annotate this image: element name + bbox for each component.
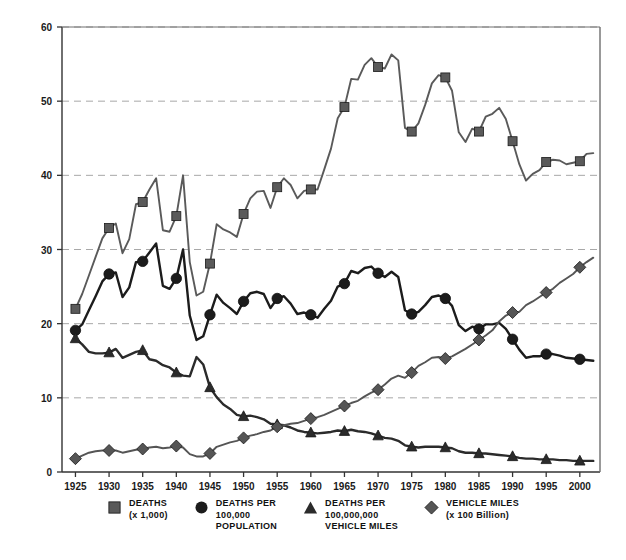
legend-label: DEATHS(x 1,000)	[129, 498, 168, 521]
data-point-marker	[338, 400, 350, 412]
legend-label-line: DEATHS PER	[216, 498, 277, 510]
legend-label-line: POPULATION	[216, 521, 277, 533]
data-point-marker	[171, 273, 181, 283]
legend-label-line: DEATHS	[129, 498, 168, 510]
circle-marker-icon	[194, 500, 209, 515]
data-point-marker	[105, 223, 114, 232]
data-point-marker	[306, 185, 315, 194]
data-point-marker	[69, 453, 81, 465]
data-point-marker	[71, 304, 80, 313]
data-point-marker	[172, 212, 181, 221]
data-point-marker	[541, 349, 551, 359]
data-point-marker	[239, 209, 248, 218]
legend-label-line: VEHICLE MILES	[325, 521, 398, 533]
svg-text:20: 20	[41, 319, 53, 330]
data-point-marker	[205, 310, 215, 320]
data-point-marker	[238, 296, 248, 306]
legend-label-line: 100,000,000	[325, 510, 398, 522]
svg-text:1995: 1995	[535, 481, 558, 492]
data-point-marker	[103, 444, 115, 456]
diamond-marker-icon	[424, 500, 439, 515]
data-point-marker	[440, 293, 450, 303]
y-axis-labels: 0102030405060	[41, 22, 53, 478]
line-chart-svg: 0102030405060 19251930193519401945195019…	[0, 0, 626, 495]
gridlines	[62, 27, 600, 398]
x-axis-labels: 1925193019351940194519501955196019651970…	[64, 481, 591, 492]
legend-item: DEATHS PER100,000POPULATION	[194, 498, 277, 533]
svg-text:0: 0	[46, 467, 52, 478]
legend-item: VEHICLE MILES(x 100 Billion)	[424, 498, 519, 521]
svg-text:1965: 1965	[333, 481, 356, 492]
x-axis-ticks	[75, 472, 579, 477]
svg-text:1990: 1990	[501, 481, 524, 492]
svg-text:1960: 1960	[300, 481, 323, 492]
data-point-marker	[205, 259, 214, 268]
data-point-marker	[238, 432, 250, 444]
svg-text:50: 50	[41, 96, 53, 107]
series-markers	[69, 63, 585, 466]
square-marker-icon	[107, 500, 122, 515]
legend-item: DEATHS(x 1,000)	[107, 498, 168, 521]
data-point-marker	[575, 354, 585, 364]
data-point-marker	[542, 157, 551, 166]
data-point-marker	[138, 345, 148, 355]
data-point-marker	[138, 198, 147, 207]
data-point-marker	[374, 63, 383, 72]
svg-text:1980: 1980	[434, 481, 457, 492]
svg-text:1985: 1985	[468, 481, 491, 492]
data-point-marker	[205, 382, 215, 392]
svg-text:1925: 1925	[64, 481, 87, 492]
svg-text:10: 10	[41, 393, 53, 404]
svg-text:60: 60	[41, 22, 53, 33]
data-point-marker	[271, 421, 283, 433]
legend-item: DEATHS PER100,000,000VEHICLE MILES	[303, 498, 398, 533]
svg-text:1950: 1950	[232, 481, 255, 492]
data-point-marker	[575, 157, 584, 166]
chart-canvas: 0102030405060 19251930193519401945195019…	[0, 0, 626, 495]
data-point-marker	[339, 278, 349, 288]
data-point-marker	[508, 137, 517, 146]
svg-text:1935: 1935	[132, 481, 155, 492]
svg-text:1955: 1955	[266, 481, 289, 492]
series-lines	[75, 54, 593, 460]
svg-text:1930: 1930	[98, 481, 121, 492]
chart-page: 0102030405060 19251930193519401945195019…	[0, 0, 626, 560]
data-point-marker	[273, 183, 282, 192]
data-point-marker	[507, 334, 517, 344]
data-point-marker	[540, 287, 552, 299]
data-point-marker	[474, 127, 483, 136]
legend-label: DEATHS PER100,000,000VEHICLE MILES	[325, 498, 398, 533]
data-point-marker	[272, 293, 282, 303]
svg-text:1970: 1970	[367, 481, 390, 492]
svg-text:1940: 1940	[165, 481, 188, 492]
data-point-marker	[138, 256, 148, 266]
legend-label-line: DEATHS PER	[325, 498, 398, 510]
legend-label-line: 100,000	[216, 510, 277, 522]
data-point-marker	[473, 334, 485, 346]
data-point-marker	[137, 443, 149, 455]
legend-label: VEHICLE MILES(x 100 Billion)	[446, 498, 519, 521]
y-axis-ticks	[57, 27, 62, 472]
data-point-marker	[439, 353, 451, 365]
data-point-marker	[441, 73, 450, 82]
data-point-marker	[340, 103, 349, 112]
data-point-marker	[507, 307, 519, 319]
data-point-marker	[407, 127, 416, 136]
data-point-marker	[474, 324, 484, 334]
legend-label-line: (x 1,000)	[129, 510, 168, 522]
svg-text:1975: 1975	[401, 481, 424, 492]
legend-label: DEATHS PER100,000POPULATION	[216, 498, 277, 533]
svg-text:40: 40	[41, 170, 53, 181]
data-point-marker	[373, 268, 383, 278]
data-point-marker	[305, 413, 317, 425]
legend-label-line: VEHICLE MILES	[446, 498, 519, 510]
svg-text:2000: 2000	[569, 481, 592, 492]
svg-text:1945: 1945	[199, 481, 222, 492]
data-point-marker	[306, 310, 316, 320]
data-point-marker	[170, 440, 182, 452]
chart-legend: DEATHS(x 1,000)DEATHS PER100,000POPULATI…	[0, 498, 626, 558]
triangle-marker-icon	[303, 500, 318, 515]
data-point-marker	[407, 309, 417, 319]
svg-text:30: 30	[41, 245, 53, 256]
data-point-marker	[104, 269, 114, 279]
